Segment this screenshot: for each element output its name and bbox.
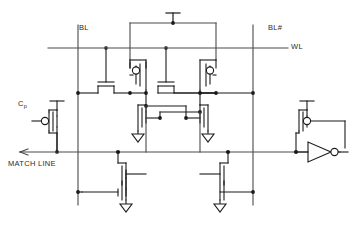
precharge-gate-label-sub: p [24, 103, 27, 109]
pmos-pull-up-right [200, 60, 216, 93]
bitline-bar-label: BL# [268, 23, 282, 32]
pmos-bubble-icon [132, 67, 139, 74]
compare-nmos-lower-left [82, 178, 126, 204]
match-line-label: MATCH LINE [8, 159, 56, 168]
compare-nmos-upper-right [200, 152, 253, 204]
ground-symbol [214, 204, 226, 212]
pmos-bubble-icon [303, 117, 310, 124]
schematic-figure: BL BL# WL Cp MATCH LINE [0, 0, 360, 226]
vdd-rail [130, 23, 216, 60]
inverter-bubble-icon [331, 148, 338, 155]
ground-symbol [132, 134, 144, 142]
pmos-bubble-icon [41, 117, 48, 124]
nmos-pull-down-right [186, 105, 208, 134]
pmos-pull-up-left [130, 60, 146, 93]
junction-dot [171, 21, 175, 25]
junction-dot [76, 91, 80, 95]
access-transistor-left [78, 48, 130, 93]
junction-dot [158, 116, 162, 120]
wordline-label: WL [291, 42, 303, 51]
junction-dot [184, 116, 188, 120]
nmos-pull-down-left [138, 105, 160, 134]
precharge-gate-label-text: C [18, 99, 24, 108]
pmos-bubble-icon [206, 67, 213, 74]
ground-symbol [120, 204, 132, 212]
circuit-schematic-canvas [0, 0, 360, 226]
keeper-pmos [296, 101, 345, 152]
output-inverter [296, 142, 348, 162]
junction-dot [251, 91, 255, 95]
precharge-gate-label: Cp [18, 99, 27, 108]
precharge-pmos [32, 101, 64, 152]
bitline-label: BL [79, 23, 89, 32]
junction-dot [251, 190, 255, 194]
ground-symbol [202, 134, 214, 142]
